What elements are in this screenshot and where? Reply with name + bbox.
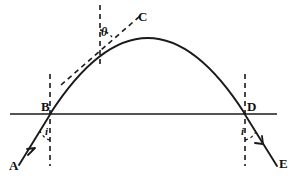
point-label-C: C bbox=[138, 10, 147, 23]
point-label-A: A bbox=[9, 159, 18, 172]
angle-arc-i-right bbox=[245, 132, 256, 140]
diagram-canvas bbox=[0, 0, 294, 178]
angle-label-theta: θ bbox=[101, 26, 107, 38]
point-label-D: D bbox=[247, 100, 256, 113]
point-label-B: B bbox=[41, 100, 50, 113]
curved-ray-path-B-C-D bbox=[50, 38, 245, 114]
point-label-E: E bbox=[279, 157, 288, 170]
emergent-ray-D-to-E bbox=[244, 113, 277, 166]
refraction-diagram: A B C D E i i θ bbox=[0, 0, 294, 178]
angle-label-i-left: i bbox=[45, 126, 48, 137]
angle-label-i-right: i bbox=[241, 126, 244, 137]
incident-ray-A-to-B bbox=[19, 113, 51, 165]
